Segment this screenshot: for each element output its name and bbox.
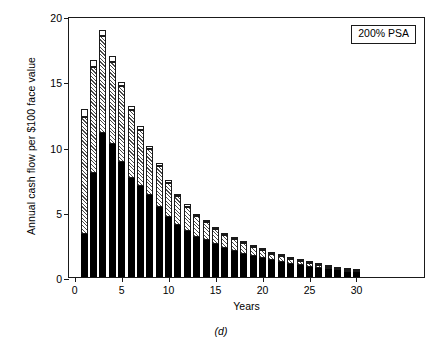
bar-segment-hatched [137,130,144,186]
bar-segment-hatched [240,243,247,253]
y-tick-label: 10 [50,143,62,155]
bar-segment-black [240,254,247,277]
bar [146,146,153,277]
bar-segment-white [325,265,332,267]
y-tick-label: 15 [50,77,62,89]
bar [109,56,116,277]
bar [128,106,135,277]
bar [118,82,125,277]
bar-segment-black [99,133,106,277]
bar-segment-black [193,237,200,277]
bar [99,30,106,277]
y-tick-mark [64,149,69,150]
bar [315,264,322,277]
bar-segment-black [315,268,322,277]
bar-segment-hatched [250,247,257,256]
y-tick-mark [64,279,69,280]
bar [268,253,275,277]
bar-segment-hatched [287,259,294,264]
bar-segment-black [156,207,163,277]
x-tick-mark [169,277,170,282]
bar-segment-black [90,173,97,277]
bar-segment-black [118,162,125,277]
y-tick-mark [64,214,69,215]
bar [231,238,238,277]
bar-segment-white [118,82,125,87]
bar-segment-hatched [315,265,322,268]
bar-segment-hatched [278,256,285,262]
bar-segment-white [306,261,313,263]
bar-segment-white [268,252,275,254]
bar-segment-hatched [128,110,135,178]
bar-segment-black [334,270,341,277]
bar-segment-white [81,109,88,117]
y-axis-title: Annual cash flow per $100 face value [25,31,37,261]
x-tick-label: 25 [304,284,316,296]
bar-segment-black [259,258,266,277]
x-tick-mark [216,277,217,282]
bar-segment-hatched [174,196,181,225]
bar-segment-black [137,186,144,277]
bar-segment-black [297,265,304,277]
bar-segment-white [174,194,181,196]
bar-segment-white [231,237,238,239]
x-tick-mark [356,277,357,282]
bar-segment-white [250,245,257,247]
bar [240,242,247,277]
bar-segment-hatched [259,250,266,258]
bar-segment-black [174,225,181,277]
x-tick-mark [75,277,76,282]
bar-segment-hatched [212,229,219,245]
bar-segment-white [156,163,163,166]
bar-segment-black [306,267,313,277]
bar [278,255,285,277]
bar-segment-white [259,248,266,250]
y-tick-label: 5 [56,208,62,220]
x-tick-mark [310,277,311,282]
bar-segment-white [278,254,285,256]
x-axis-title: Years [68,300,425,312]
bar-segment-hatched [184,207,191,232]
bar-segment-white [212,227,219,229]
plot-area: 05101520 051015202530 200% PSA [68,17,425,278]
bar-segment-white [240,241,247,243]
bar-segment-black [109,144,116,277]
bar [221,233,228,277]
bar-segment-white [90,60,97,67]
bar-segment-white [128,106,135,110]
bar-segment-white [109,56,116,61]
bar-segment-hatched [109,62,116,144]
bar [193,214,200,277]
bar-segment-black [221,248,228,277]
bar-segment-black [165,217,172,277]
bar-segment-hatched [306,263,313,267]
bar-segment-black [203,240,210,277]
bar-segment-hatched [165,183,172,217]
bar-segment-hatched [203,222,210,240]
bar-segment-black [353,272,360,277]
bar [203,221,210,277]
bar-segment-hatched [221,235,228,249]
bar-segment-hatched [193,216,200,237]
bar-segment-white [334,267,341,269]
x-tick-label: 5 [119,284,125,296]
bar-segment-black [184,231,191,277]
bar-segment-hatched [334,268,341,270]
y-tick-label: 0 [56,273,62,285]
figure-caption: (d) [0,325,442,337]
bar-segment-black [344,272,351,277]
bar-segment-white [287,257,294,259]
bar-segment-white [193,214,200,216]
y-tick-mark [64,18,69,19]
bar-segment-black [128,178,135,277]
bar-segment-black [146,195,153,277]
bar [287,258,294,277]
bar-segment-white [146,146,153,149]
x-tick-mark [263,277,264,282]
bar-segment-white [221,233,228,235]
bar-segment-hatched [325,267,332,270]
bar [184,204,191,277]
bar-segment-hatched [268,254,275,261]
bar-segment-black [250,256,257,277]
bar-segment-black [325,269,332,277]
